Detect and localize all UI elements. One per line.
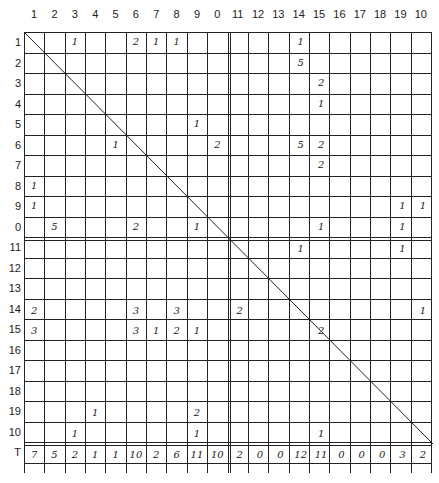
- row-label: 8: [0, 180, 21, 192]
- column-label: 3: [65, 8, 85, 20]
- total-cell: 0: [372, 445, 392, 466]
- total-cell: 10: [126, 445, 146, 466]
- row-label: 1: [0, 36, 21, 48]
- column-label: 8: [166, 8, 186, 20]
- column-label: 17: [350, 8, 370, 20]
- row-label: 3: [0, 77, 21, 89]
- row-label: 10: [0, 426, 21, 438]
- row-label: 4: [0, 98, 21, 110]
- column-label: 6: [126, 8, 146, 20]
- column-label: 0: [207, 8, 227, 20]
- row-label: 17: [0, 364, 21, 376]
- column-label: 19: [390, 8, 410, 20]
- total-cell: 2: [413, 445, 433, 466]
- row-label: 0: [0, 221, 21, 233]
- diagonal-line: [24, 32, 434, 445]
- column-label: 2: [44, 8, 64, 20]
- row-label: 6: [0, 139, 21, 151]
- total-cell: 7: [24, 445, 44, 466]
- column-label: 5: [105, 8, 125, 20]
- row-label: 2: [0, 57, 21, 69]
- column-label: 11: [228, 8, 248, 20]
- column-label: 4: [85, 8, 105, 20]
- total-cell: 1: [85, 445, 105, 466]
- total-cell: 0: [331, 445, 351, 466]
- column-label: 15: [309, 8, 329, 20]
- total-cell: 3: [392, 445, 412, 466]
- row-label: 11: [0, 241, 21, 253]
- column-label: 10: [411, 8, 431, 20]
- column-label: 12: [248, 8, 268, 20]
- row-label: 12: [0, 262, 21, 274]
- row-label: 9: [0, 200, 21, 212]
- total-cell: 10: [207, 445, 227, 466]
- column-label: 16: [329, 8, 349, 20]
- total-cell: 5: [44, 445, 64, 466]
- row-label: 16: [0, 344, 21, 356]
- row-label: 13: [0, 282, 21, 294]
- column-label: 14: [289, 8, 309, 20]
- total-cell: 2: [146, 445, 166, 466]
- total-cell: 0: [270, 445, 290, 466]
- row-label: 18: [0, 385, 21, 397]
- total-cell: 11: [187, 445, 207, 466]
- row-label: 15: [0, 323, 21, 335]
- row-label: 7: [0, 159, 21, 171]
- total-cell: 2: [65, 445, 85, 466]
- row-label: 14: [0, 303, 21, 315]
- row-label: 5: [0, 118, 21, 130]
- row-label: 19: [0, 405, 21, 417]
- total-cell: 2: [230, 445, 250, 466]
- column-label: 18: [370, 8, 390, 20]
- column-label: 1: [24, 8, 44, 20]
- column-label: 13: [268, 8, 288, 20]
- total-cell: 12: [291, 445, 311, 466]
- total-cell: 6: [166, 445, 186, 466]
- total-cell: 0: [352, 445, 372, 466]
- total-cell: 0: [250, 445, 270, 466]
- row-label: T: [0, 446, 21, 458]
- total-cell: 1: [105, 445, 125, 466]
- column-label: 7: [146, 8, 166, 20]
- total-cell: 11: [311, 445, 331, 466]
- column-label: 9: [187, 8, 207, 20]
